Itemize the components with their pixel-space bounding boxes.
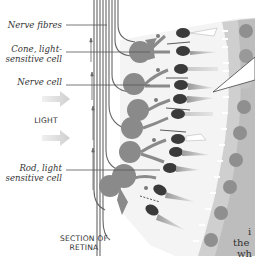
diagram-title-line2: RETINA [55,243,113,252]
label-rod: Rod, light sensitive cell [6,163,62,183]
diagram-title-line1: SECTION OF [55,234,113,243]
cropped-text-2: the [233,237,249,248]
pigment-nucleus [239,24,253,38]
light-arrow-icon [42,130,70,146]
receptor-nucleus [176,28,190,38]
label-rod-line2: sensitive cell [6,173,62,183]
label-nerve-fibres: Nerve fibres [8,20,62,30]
light-label: LIGHT [28,116,64,125]
light-arrow-icon [42,91,70,107]
diagram-title: SECTION OF RETINA [55,234,113,252]
label-cone-line2: sensitive cell [6,54,62,64]
cropped-text-3: wh [237,248,252,259]
label-nerve-fibres-text: Nerve fibres [8,20,62,30]
label-nerve-cell: Nerve cell [17,77,62,87]
cropped-text-1: i [248,226,251,237]
label-cone-line1: Cone, light- [6,44,62,54]
label-cone: Cone, light- sensitive cell [6,44,62,64]
label-nerve-cell-text: Nerve cell [17,77,62,87]
label-rod-line1: Rod, light [6,163,62,173]
